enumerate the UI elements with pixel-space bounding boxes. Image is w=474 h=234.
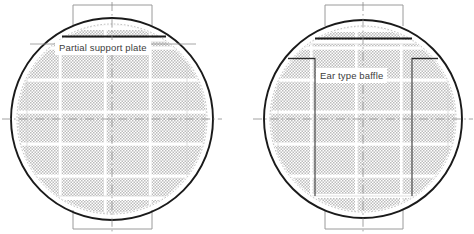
label-ear-type-baffle: Ear type baffle	[316, 68, 387, 83]
label-partial-support-plate: Partial support plate	[55, 40, 151, 55]
drawing-canvas	[0, 0, 474, 234]
